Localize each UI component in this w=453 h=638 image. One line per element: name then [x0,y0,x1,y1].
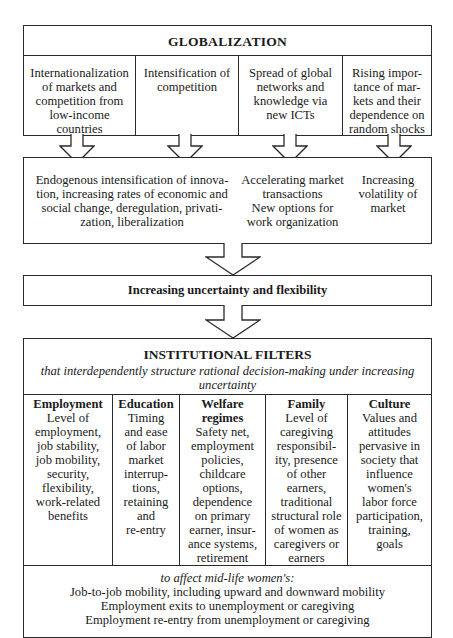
effects-accelerating: Accelerating market transactions New opt… [240,173,345,229]
text-line: caregiving [266,425,347,439]
text-line: New options for [240,201,345,215]
text-line: dependence on [343,108,431,122]
text-line: Rising impor- [343,66,431,80]
text-line: earners, [266,481,347,495]
text-line: participation, [348,509,431,523]
down-arrow-icon [205,305,261,339]
filter-culture: Culture Values and attitudes pervasive i… [348,397,431,551]
text-line: caregivers or [266,537,347,551]
text-line: uncertainty [23,378,432,392]
text-line: and [113,509,179,523]
text-line: Timing [113,411,179,425]
outcomes-intro: to affect mid-life women's: [23,571,432,585]
text-line: interrup- [113,467,179,481]
filter-heading: Employment [24,397,112,411]
text-line: employment, [24,425,112,439]
institutional-filters-title: INSTITUTIONAL FILTERS [23,348,432,362]
text-line: re-entry [113,523,179,537]
filter-welfare-regimes: Welfare regimes Safety net, employment p… [180,397,265,565]
globalization-cell-intensification: Intensification of competition [136,66,238,94]
outcomes: to affect mid-life women's: Job-to-job m… [23,571,432,627]
text-line: attitudes [348,425,431,439]
filter-heading: Family [266,397,347,411]
text-line: flexibility, [24,481,112,495]
text-line: retaining [113,495,179,509]
text-line: Spread of global [239,66,342,80]
filter-heading: Welfare [180,397,265,411]
institutional-filters-subtitle: that interdependently structure rational… [23,364,432,392]
uncertainty-title: Increasing uncertainty and flexibility [23,283,432,297]
text-line: knowledge via [239,94,342,108]
text-line: competition from [24,94,135,108]
globalization-divider [23,55,432,56]
text-line: work-related [24,495,112,509]
text-line: tance of mar- [343,80,431,94]
text-line: of other [266,467,347,481]
globalization-cell-networks: Spread of global networks and knowledge … [239,66,342,122]
text-line: transactions [240,187,345,201]
filter-family: Family Level of caregiving responsibil- … [266,397,347,565]
text-line: volatility of [348,187,428,201]
text-line: structural role [266,509,347,523]
outcome-line: Employment exits to unemployment or care… [23,599,432,613]
text-line: childcare [180,467,265,481]
text-line: ity, presence [266,453,347,467]
text-line: responsibil- [266,439,347,453]
text-line: market [348,201,428,215]
text-line: labor force [348,495,431,509]
text-line: earners [266,551,347,565]
text-line: women's [348,481,431,495]
text-line: earner, insur- [180,523,265,537]
text-line: dependence [180,495,265,509]
text-line: Level of [24,411,112,425]
text-line: training, [348,523,431,537]
text-line: options, [180,481,265,495]
text-line: goals [348,537,431,551]
text-line: of labor [113,439,179,453]
text-line: job mobility, [24,453,112,467]
text-line: Safety net, [180,425,265,439]
text-line: Values and [348,411,431,425]
filters-header-divider [23,394,432,395]
text-line: Level of [266,411,347,425]
text-line: Accelerating market [240,173,345,187]
effects-volatility: Increasing volatility of market [348,173,428,215]
down-arrow-icon [205,243,261,276]
outcome-line: Job-to-job mobility, including upward an… [23,585,432,599]
text-line: influence [348,467,431,481]
text-line: society that [348,453,431,467]
text-line: new ICTs [239,108,342,122]
globalization-cell-markets: Rising impor- tance of mar- kets and the… [343,66,431,136]
text-line: employment [180,439,265,453]
text-line: low-income [24,108,135,122]
text-line: Increasing [348,173,428,187]
text-line: security, [24,467,112,481]
text-line: Intensification of [136,66,238,80]
filter-education: Education Timing and ease of labor marke… [113,397,179,537]
text-line: retirement [180,551,265,565]
text-line: Internationalization [24,66,135,80]
text-line: pervasive in [348,439,431,453]
text-line: tions, [113,481,179,495]
filter-employment: Employment Level of employment, job stab… [24,397,112,523]
text-line: that interdependently structure rational… [23,364,432,378]
filter-heading: Education [113,397,179,411]
text-line: job stability, [24,439,112,453]
text-line: Endogenous intensification of innova- [28,173,236,187]
text-line: work organization [240,215,345,229]
text-line: competition [136,80,238,94]
text-line: of women as [266,523,347,537]
text-line: traditional [266,495,347,509]
text-line: policies, [180,453,265,467]
outcome-line: Employment re-entry from unemployment or… [23,613,432,627]
text-line: on primary [180,509,265,523]
filters-outcomes-divider [23,565,432,566]
text-line: ance systems, [180,537,265,551]
effects-endogenous: Endogenous intensification of innova- ti… [28,173,236,229]
text-line: tion, increasing rates of economic and [28,187,236,201]
text-line: networks and [239,80,342,94]
text-line: kets and their [343,94,431,108]
text-line: and ease [113,425,179,439]
globalization-cell-internationalization: Internationalization of markets and comp… [24,66,135,136]
text-line: of markets and [24,80,135,94]
